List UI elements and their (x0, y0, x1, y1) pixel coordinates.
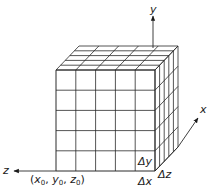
grid-line (155, 66, 178, 90)
delta-z-label: Δz (158, 169, 171, 180)
axis-x-arrow (178, 118, 198, 147)
cube-side-face (155, 46, 178, 171)
axis-label-y: y (150, 4, 157, 15)
grid-line (155, 107, 178, 131)
cube-grid-diagram (0, 0, 211, 191)
origin-paren-close: ) (81, 173, 85, 186)
coordinate-axes (14, 16, 198, 171)
grid-line (155, 127, 178, 151)
grid-line (76, 46, 99, 70)
delta-y-label: Δy (138, 156, 152, 167)
origin-point-label: (x0, y0, z0) (30, 174, 85, 187)
grid-line (56, 46, 79, 70)
axis-label-x: x (200, 104, 207, 115)
delta-x-label: Δx (138, 176, 152, 187)
grid-line (155, 86, 178, 110)
axis-label-z: z (3, 165, 9, 176)
grid-line (155, 46, 178, 70)
grid-line (135, 46, 158, 70)
grid-line (115, 46, 138, 70)
grid-line (96, 46, 119, 70)
